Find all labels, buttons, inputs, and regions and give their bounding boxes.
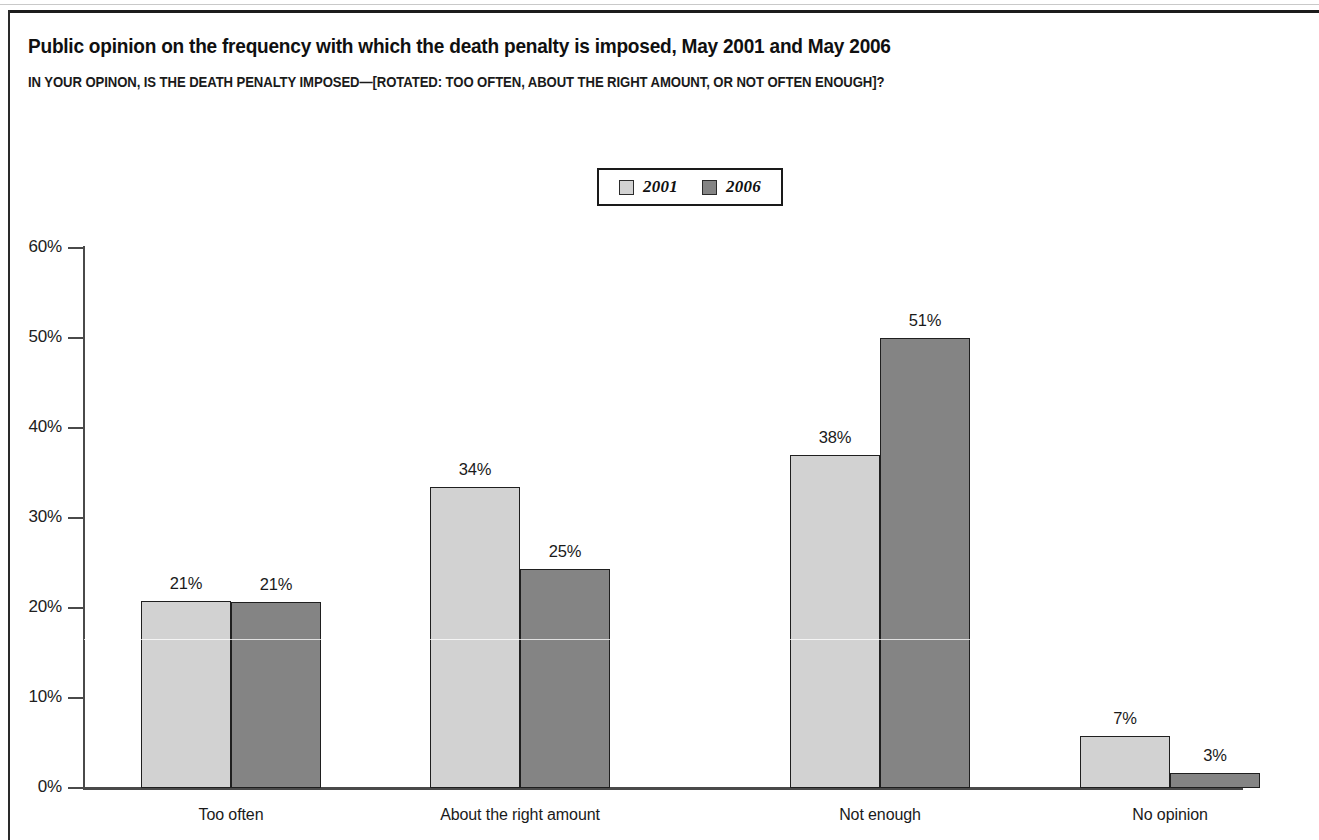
- y-tick-mark: [68, 427, 84, 429]
- bar-value-label: 3%: [1170, 746, 1260, 765]
- y-tick-label: 50%: [4, 327, 62, 347]
- category-label: About the right amount: [370, 806, 670, 824]
- bar-2006-about-the-right-amount: [520, 569, 610, 788]
- bar-value-label: 34%: [430, 460, 520, 479]
- bar-value-label: 7%: [1080, 709, 1170, 728]
- y-tick-label: 20%: [4, 597, 62, 617]
- bar-value-label: 25%: [520, 542, 610, 561]
- category-label: Too often: [81, 806, 381, 824]
- category-label: Not enough: [730, 806, 1030, 824]
- y-tick-mark: [68, 247, 84, 249]
- bar-2001-no-opinion: [1080, 736, 1170, 788]
- y-tick-label: 60%: [4, 237, 62, 257]
- bar-value-label: 21%: [141, 574, 231, 593]
- y-tick-mark: [68, 787, 84, 789]
- bar-2001-about-the-right-amount: [430, 487, 520, 789]
- bar-value-label: 38%: [790, 428, 880, 447]
- bar-2006-no-opinion: [1170, 773, 1260, 788]
- y-tick-label: 40%: [4, 417, 62, 437]
- y-tick-label: 30%: [4, 507, 62, 527]
- plot-area: 0%10%20%30%40%50%60% 21%21%34%25%38%51%7…: [0, 0, 1319, 840]
- bar-value-label: 51%: [880, 311, 970, 330]
- bar-2001-too-often: [141, 601, 231, 788]
- y-tick-label: 0%: [4, 777, 62, 797]
- category-label: No opinion: [1020, 806, 1319, 824]
- chart-page: Public opinion on the frequency with whi…: [0, 0, 1319, 840]
- y-tick-mark: [68, 697, 84, 699]
- bar-2006-not-enough: [880, 338, 970, 788]
- y-tick-label: 10%: [4, 687, 62, 707]
- bar-2006-too-often: [231, 602, 321, 788]
- bar-2001-not-enough: [790, 455, 880, 788]
- y-tick-mark: [68, 607, 84, 609]
- y-tick-mark: [68, 517, 84, 519]
- bar-value-label: 21%: [231, 575, 321, 594]
- y-tick-mark: [68, 337, 84, 339]
